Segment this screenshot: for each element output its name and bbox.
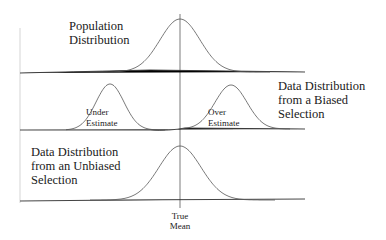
true-mean-label-line1: True: [172, 211, 189, 221]
unbiased-label-line2: from an Unbiased: [31, 159, 121, 173]
under-estimate-line1: Under: [86, 107, 109, 117]
distribution-diagram: Population Distribution Data Distributio…: [0, 0, 386, 240]
unbiased-label-line3: Selection: [31, 173, 78, 187]
population-label-line1: Population: [69, 19, 124, 33]
biased-label-line2: from a Biased: [278, 93, 349, 107]
population-label-line2: Distribution: [69, 33, 130, 47]
true-mean-label-line2: Mean: [170, 221, 191, 231]
under-estimate-line2: Estimate: [86, 118, 118, 128]
over-estimate-line2: Estimate: [208, 118, 240, 128]
population-baseline: [20, 70, 305, 73]
biased-label-line1: Data Distribution: [278, 79, 366, 93]
over-estimate-line1: Over: [208, 107, 226, 117]
unbiased-label-line1: Data Distribution: [31, 145, 119, 159]
biased-label-line3: Selection: [278, 107, 325, 121]
